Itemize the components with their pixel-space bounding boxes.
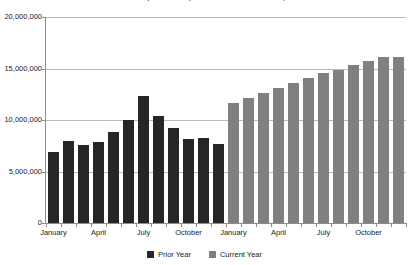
y-axis-labels: 05,000,00010,000,00015,000,00020,000,000 [0,17,42,223]
x-axis-tick-mark [211,223,212,227]
x-axis-tick-label: July [317,228,330,238]
x-axis-tick-label: July [137,228,150,238]
bar[interactable] [288,83,299,223]
legend-label: Prior Year [158,250,191,259]
bar[interactable] [363,61,374,223]
x-axis-tick-mark [91,223,92,227]
x-axis-tick-mark [136,223,137,227]
x-axis-tick-label: January [220,228,247,238]
bar[interactable] [333,70,344,223]
bar[interactable] [48,152,59,223]
bar[interactable] [138,96,149,223]
bar[interactable] [273,88,284,223]
plot-area [46,17,406,223]
bar[interactable] [348,65,359,223]
bar[interactable] [198,138,209,223]
y-axis-tick-label: 10,000,000 [0,116,42,124]
bar[interactable] [258,93,269,223]
bar[interactable] [318,73,329,223]
bar[interactable] [378,57,389,223]
bar[interactable] [183,139,194,223]
bar[interactable] [78,145,89,223]
y-axis-tick-label: 15,000,000 [0,65,42,73]
bar[interactable] [303,78,314,223]
x-axis-tick-mark [76,223,77,227]
x-axis-tick-mark [301,223,302,227]
x-axis-tick-mark [286,223,287,227]
chart-legend: Prior YearCurrent Year [0,250,409,259]
y-axis-tick-label: 20,000,000 [0,13,42,21]
legend-item[interactable]: Prior Year [147,250,191,259]
x-axis-tick-mark [316,223,317,227]
x-axis-tick-label: October [355,228,382,238]
gridline [46,17,406,18]
legend-swatch-icon [209,251,216,258]
legend-label: Current Year [220,250,262,259]
bar[interactable] [63,141,74,223]
y-axis-tick-label: 5,000,000 [0,168,42,176]
x-axis-tick-mark [361,223,362,227]
x-axis-tick-mark [151,223,152,227]
x-axis-ticks [46,223,406,227]
bar[interactable] [153,116,164,223]
x-axis-tick-mark [391,223,392,227]
bar[interactable] [213,144,224,223]
x-axis-tick-mark [106,223,107,227]
x-axis-labels: JanuaryAprilJulyOctoberJanuaryAprilJulyO… [46,228,406,239]
x-axis-tick-mark [121,223,122,227]
x-axis-tick-mark [241,223,242,227]
x-axis-tick-mark [346,223,347,227]
y-axis-tick-label: 0 [0,219,42,227]
bar[interactable] [243,98,254,223]
bar[interactable] [393,57,404,223]
x-axis-tick-label: October [175,228,202,238]
x-axis-tick-mark [406,223,407,227]
x-axis-tick-mark [226,223,227,227]
x-axis-tick-label: April [271,228,286,238]
x-axis-tick-mark [166,223,167,227]
legend-swatch-icon [147,251,154,258]
chart-title: Monthly Revenue (Prior Year vs Current Y… [0,0,409,1]
x-axis-tick-label: April [91,228,106,238]
x-axis-tick-label: January [40,228,67,238]
x-axis-tick-mark [331,223,332,227]
bar[interactable] [228,103,239,224]
x-axis-tick-mark [61,223,62,227]
x-axis-tick-mark [271,223,272,227]
x-axis-tick-mark [46,223,47,227]
bar[interactable] [123,120,134,223]
bar[interactable] [168,128,179,223]
x-axis-tick-mark [196,223,197,227]
bar[interactable] [93,142,104,223]
legend-item[interactable]: Current Year [209,250,262,259]
x-axis-tick-mark [376,223,377,227]
x-axis-tick-mark [256,223,257,227]
x-axis-tick-mark [181,223,182,227]
bar-chart: Monthly Revenue (Prior Year vs Current Y… [0,0,409,265]
bar[interactable] [108,132,119,223]
